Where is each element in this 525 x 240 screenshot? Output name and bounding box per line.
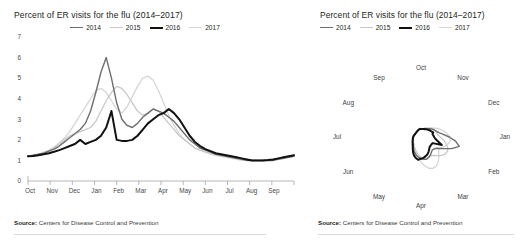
polar-month-label: Dec (488, 99, 500, 106)
left-chart-panel: Percent of ER visits for the flu (2014–2… (0, 0, 308, 240)
polar-month-label: Jul (333, 133, 341, 140)
left-chart-title: Percent of ER visits for the flu (2014–2… (14, 10, 302, 20)
legend-label-2015: 2015 (126, 24, 141, 31)
right-source-label: Source: (318, 219, 341, 226)
legend-label-2016: 2016 (166, 24, 181, 31)
y-tick-label: 7 (17, 33, 21, 40)
x-tick-label: Dec (69, 187, 81, 194)
x-tick-label: Aug (246, 187, 258, 195)
legend-item-2014-polar: 2014 (320, 24, 351, 31)
x-tick-label: Jun (202, 187, 213, 194)
left-source-label: Source: (14, 219, 37, 226)
legend-item-2016-polar: 2016 (399, 24, 430, 31)
polar-month-label: Feb (488, 168, 499, 175)
x-tick-label: May (179, 187, 192, 195)
y-tick-label: 0 (17, 177, 21, 184)
legend-swatch-2014-polar (320, 27, 333, 28)
left-plot-area: 01234567OctNovDecJanFebMarAprMayJunJulAu… (6, 33, 302, 208)
left-chart-legend: 2014 2015 2016 2017 (6, 24, 302, 31)
right-footer-rule (318, 234, 514, 235)
legend-item-2016: 2016 (150, 24, 181, 31)
x-tick-label: Mar (135, 187, 147, 194)
legend-label-2015-polar: 2015 (376, 24, 391, 31)
legend-item-2014: 2014 (70, 24, 101, 31)
legend-swatch-2016 (150, 27, 163, 29)
legend-item-2015-polar: 2015 (360, 24, 391, 31)
figure-container: Percent of ER visits for the flu (2014–2… (0, 0, 525, 240)
legend-label-2014: 2014 (86, 24, 101, 31)
x-tick-label: Nov (46, 187, 58, 194)
y-tick-label: 3 (17, 116, 21, 123)
polar-month-label: Jan (500, 133, 511, 140)
right-chart-title: Percent of ER visits for the flu (2014–2… (320, 10, 517, 20)
legend-item-2017-polar: 2017 (439, 24, 470, 31)
right-source-note: Source: Centers for Disease Control and … (318, 219, 462, 226)
x-tick-label: Oct (25, 187, 35, 194)
legend-swatch-2015-polar (360, 27, 373, 28)
x-tick-label: Jul (225, 187, 233, 194)
polar-month-label: Oct (416, 64, 426, 71)
y-tick-label: 5 (17, 74, 21, 81)
left-footer-rule (14, 234, 266, 235)
legend-label-2016-polar: 2016 (415, 24, 430, 31)
legend-label-2017: 2017 (205, 24, 220, 31)
legend-swatch-2017-polar (439, 27, 452, 28)
polar-month-label: Apr (416, 202, 427, 210)
x-tick-label: Apr (158, 187, 169, 195)
legend-item-2017: 2017 (189, 24, 220, 31)
polar-month-label: Mar (457, 193, 469, 200)
line-chart-svg: 01234567OctNovDecJanFebMarAprMayJunJulAu… (6, 33, 306, 208)
x-tick-label: Feb (113, 187, 124, 194)
polar-month-label: Nov (457, 74, 469, 81)
legend-swatch-2016-polar (399, 27, 412, 29)
x-tick-label: Jan (91, 187, 102, 194)
legend-item-2015: 2015 (110, 24, 141, 31)
y-tick-label: 4 (17, 95, 21, 102)
legend-label-2014-polar: 2014 (336, 24, 351, 31)
series-line-2014 (28, 58, 294, 161)
y-tick-label: 6 (17, 54, 21, 61)
polar-month-label: Sep (373, 74, 385, 82)
legend-swatch-2015 (110, 27, 123, 28)
polar-month-label: May (373, 193, 386, 201)
y-tick-label: 1 (17, 157, 21, 164)
legend-swatch-2017 (189, 27, 202, 28)
polar-month-label: Jun (343, 168, 354, 175)
legend-label-2017-polar: 2017 (455, 24, 470, 31)
x-tick-label: Sep (268, 187, 280, 195)
left-source-note: Source: Centers for Disease Control and … (14, 219, 158, 226)
legend-swatch-2014 (70, 27, 83, 28)
right-chart-panel: Percent of ER visits for the flu (2014–2… (308, 0, 525, 240)
right-source-text: Centers for Disease Control and Preventi… (343, 219, 463, 226)
polar-chart-svg: OctNovDecJanFebMarAprMayJunJulAugSep (318, 33, 518, 211)
right-chart-legend: 2014 2015 2016 2017 (318, 24, 517, 31)
right-plot-area: OctNovDecJanFebMarAprMayJunJulAugSep (318, 33, 517, 211)
left-source-text: Centers for Disease Control and Preventi… (39, 219, 159, 226)
polar-month-label: Aug (343, 99, 355, 107)
y-tick-label: 2 (17, 136, 21, 143)
